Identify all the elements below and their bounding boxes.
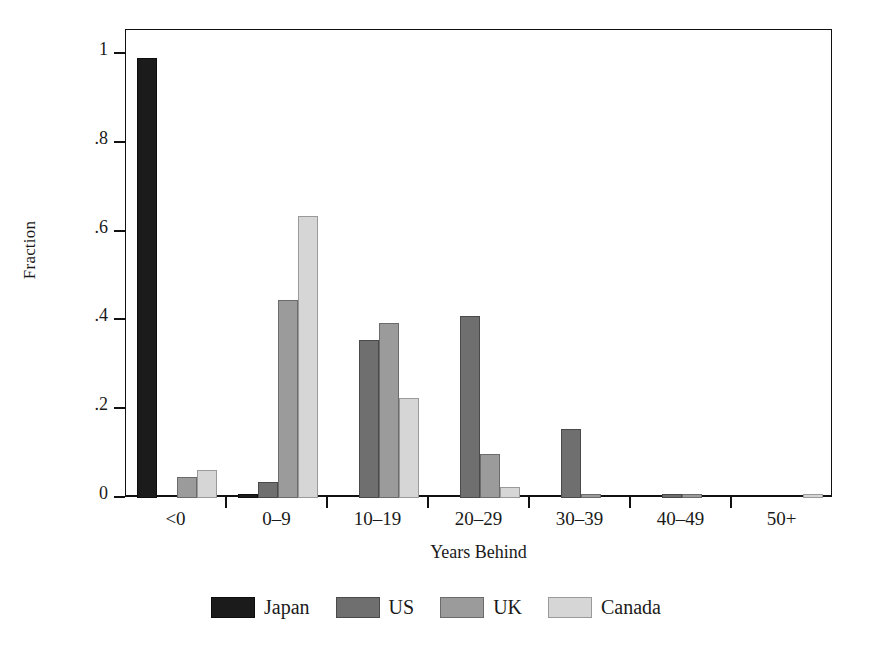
bar-us-1019	[359, 340, 379, 498]
legend-swatch-uk	[440, 597, 484, 618]
y-tick-label: 0	[99, 484, 108, 502]
x-axis-category-label: 0–9	[262, 508, 291, 530]
legend-label-canada: Canada	[601, 596, 661, 619]
x-axis-category-label: 30–39	[556, 508, 604, 530]
y-tick-mark	[114, 141, 125, 143]
y-axis-title-text: Fraction	[20, 221, 40, 279]
bar-canada-0	[197, 470, 217, 498]
y-tick-mark	[114, 496, 125, 498]
x-axis-category-label: <0	[165, 508, 185, 530]
bar-canada-2029	[500, 487, 520, 498]
bar-uk-1019	[379, 323, 399, 498]
legend-label-japan: Japan	[264, 596, 310, 619]
y-tick-mark	[114, 230, 125, 232]
x-tick-mark	[326, 497, 328, 508]
bar-chart-figure: Fraction 0.2.4.6.81 <00–910–1920–2930–39…	[0, 0, 872, 651]
bar-uk-0	[177, 477, 197, 498]
bar-uk-3039	[581, 494, 601, 498]
x-axis-category-label: 20–29	[455, 508, 503, 530]
legend-label-uk: UK	[493, 596, 522, 619]
x-axis-category-label: 10–19	[354, 508, 402, 530]
bar-canada-09	[298, 216, 318, 498]
bar-uk-09	[278, 300, 298, 498]
bar-us-3039	[561, 429, 581, 498]
legend-swatch-canada	[548, 597, 592, 618]
bar-uk-2029	[480, 454, 500, 498]
bar-uk-4049	[682, 494, 702, 498]
legend-item-us[interactable]: US	[336, 596, 415, 619]
bar-us-2029	[460, 316, 480, 498]
bar-japan-0	[137, 58, 157, 498]
legend-label-us: US	[389, 596, 415, 619]
x-axis-category-label: 50+	[767, 508, 797, 530]
plot-area	[125, 29, 832, 497]
legend-swatch-us	[336, 597, 380, 618]
y-tick-label: .2	[95, 395, 109, 413]
bar-us-09	[258, 482, 278, 498]
x-tick-mark	[629, 497, 631, 508]
x-tick-mark	[528, 497, 530, 508]
y-tick-label: 1	[99, 40, 108, 58]
legend-item-japan[interactable]: Japan	[211, 596, 310, 619]
x-tick-mark	[730, 497, 732, 508]
x-tick-mark	[427, 497, 429, 508]
legend-item-uk[interactable]: UK	[440, 596, 522, 619]
bar-canada-50+	[803, 494, 823, 498]
legend-swatch-japan	[211, 597, 255, 618]
bar-canada-1019	[399, 398, 419, 498]
y-tick-label: .8	[95, 129, 109, 147]
y-tick-mark	[114, 318, 125, 320]
bar-us-4049	[662, 494, 682, 498]
x-tick-mark	[225, 497, 227, 508]
bar-japan-09	[238, 494, 258, 498]
x-axis-category-label: 40–49	[657, 508, 705, 530]
legend-item-canada[interactable]: Canada	[548, 596, 661, 619]
y-tick-label: .6	[95, 218, 109, 236]
y-tick-label: .4	[95, 306, 109, 324]
y-tick-mark	[114, 52, 125, 54]
chart-legend: JapanUSUKCanada	[0, 596, 872, 619]
y-tick-mark	[114, 407, 125, 409]
y-axis-title: Fraction	[0, 0, 60, 500]
x-axis-title: Years Behind	[125, 542, 832, 563]
